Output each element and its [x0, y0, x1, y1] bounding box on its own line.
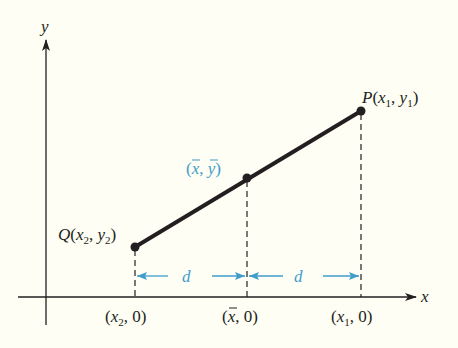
distance-label-left: d — [182, 267, 191, 286]
y-axis-label: y — [39, 17, 49, 36]
tick-label-x2: (x2, 0) — [105, 307, 146, 328]
distance-left: d — [137, 267, 245, 286]
svg-text:(x, 0): (x, 0) — [222, 307, 258, 326]
tick-label-xbar: (x, 0) — [222, 307, 258, 326]
tick-label-x1: (x1, 0) — [331, 307, 372, 328]
point-q — [131, 243, 140, 252]
midpoint-diagram: x y P(x1, y1) Q(x2, y2) (x, y) d d (x2 — [0, 0, 458, 348]
x-axis-label: x — [420, 287, 429, 306]
dashed-projection-lines — [135, 114, 361, 297]
distance-right: d — [249, 267, 359, 286]
svg-text:(x, y): (x, y) — [186, 159, 221, 178]
point-midpoint — [243, 174, 252, 183]
label-q: Q(x2, y2) — [58, 225, 116, 246]
point-p — [357, 107, 366, 116]
distance-label-right: d — [294, 267, 303, 286]
label-midpoint: (x, y) — [186, 159, 221, 178]
label-p: P(x1, y1) — [361, 88, 418, 109]
